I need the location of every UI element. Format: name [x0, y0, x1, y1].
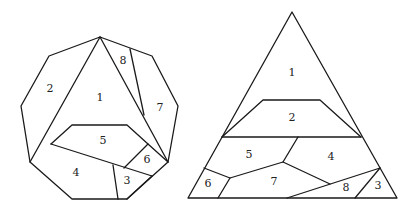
nonagon-piece-label: 4 — [73, 166, 80, 179]
nonagon-outline — [21, 37, 178, 199]
triangle-piece-label: 7 — [271, 175, 278, 188]
nonagon-piece-label: 3 — [124, 174, 131, 187]
nonagon-piece-label: 8 — [120, 54, 127, 67]
triangle-figure: 12345678 — [188, 12, 397, 198]
triangle-cut-line — [283, 137, 298, 162]
nonagon-figure: 12345678 — [21, 37, 178, 199]
triangle-cut-line — [204, 162, 330, 184]
triangle-piece-label: 1 — [289, 66, 296, 79]
triangle-cut-line — [218, 178, 230, 198]
nonagon-piece-label: 6 — [144, 153, 151, 166]
triangle-piece-label: 8 — [343, 181, 350, 194]
nonagon-cut-line — [113, 165, 118, 199]
nonagon-cut-line — [30, 37, 100, 162]
nonagon-piece-label: 5 — [100, 134, 107, 147]
triangle-piece-label: 4 — [328, 150, 335, 163]
nonagon-cut-line — [51, 144, 152, 176]
nonagon-cut-line — [100, 37, 168, 162]
nonagon-piece-label: 7 — [157, 101, 164, 114]
triangle-piece-label: 2 — [289, 111, 296, 124]
nonagon-piece-label: 2 — [47, 82, 54, 95]
triangle-piece-label: 5 — [246, 148, 253, 161]
triangle-outline — [188, 12, 397, 198]
triangle-cut-line — [287, 168, 380, 198]
nonagon-cut-line — [127, 176, 152, 199]
nonagon-piece-label: 1 — [97, 91, 104, 104]
triangle-piece-label: 3 — [375, 179, 382, 192]
dissection-diagram: 12345678 12345678 — [0, 0, 415, 213]
triangle-piece-label: 6 — [205, 177, 212, 190]
